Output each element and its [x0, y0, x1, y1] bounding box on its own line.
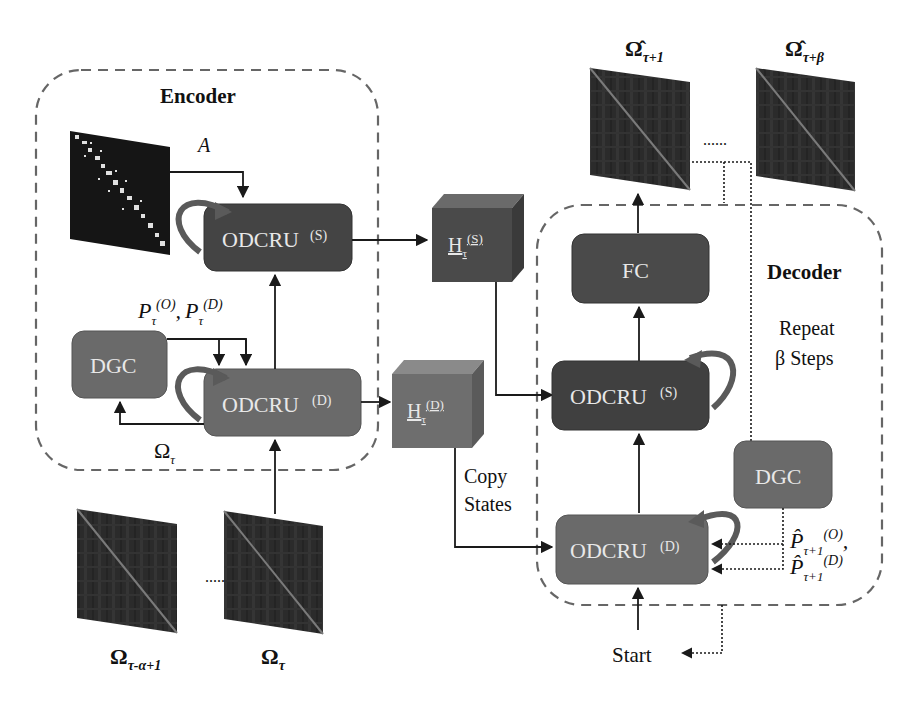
repeat-label-1: Repeat — [779, 317, 835, 340]
architecture-diagram: A Encoder ODCRU (S) Pτ(O),Pτ(D) DGC ODCR… — [0, 0, 912, 701]
copy-states-label-1: Copy — [464, 465, 507, 488]
encoder-dgc-box[interactable]: DGC — [72, 331, 167, 398]
decoder-dgc-box[interactable]: DGC — [734, 441, 832, 508]
arrow-dgc-p-o — [167, 339, 246, 365]
arrow-adjacency-to-odcru-s — [170, 172, 243, 197]
encoder-title: Encoder — [160, 84, 236, 108]
output-label-first: Ω̂τ+1 — [625, 36, 664, 65]
input-first-label: Ωτ-α+1 — [110, 644, 161, 673]
p-hat-label: P̂τ+1(O), P̂τ+1(D) — [789, 527, 848, 584]
svg-text:Ωτ-α+1: Ωτ-α+1 — [110, 644, 161, 673]
decoder-fc-label: FC — [622, 258, 649, 283]
decoder-odcru-d-label: ODCRU — [570, 538, 647, 563]
svg-text:Ω̂τ+β: Ω̂τ+β — [785, 36, 825, 65]
decoder-odcru-s-sup: (S) — [660, 385, 677, 401]
omega-feedback-label: Ωτ — [154, 438, 176, 467]
arrow-hs-to-decoder-odcru-s — [496, 282, 552, 395]
encoder-odcru-d-sup: (D) — [312, 393, 332, 409]
adjacency-label: A — [196, 134, 211, 156]
decoder-odcru-s-box[interactable]: ODCRU (S) — [552, 361, 709, 430]
svg-text:Pτ(O),Pτ(D): Pτ(O),Pτ(D) — [137, 297, 223, 328]
decoder-title: Decoder — [767, 260, 842, 284]
input-last-label: Ωτ — [261, 644, 286, 673]
repeat-label-2: β Steps — [775, 347, 834, 370]
output-ellipsis: ...... — [703, 131, 727, 148]
hidden-state-s-cube: Hτ(S) — [432, 194, 524, 282]
dotted-arrow-dgc-p-d — [712, 508, 783, 569]
decoder-odcru-d-sup: (D) — [660, 539, 680, 555]
decoder-odcru-d-box[interactable]: ODCRU (D) — [556, 515, 708, 584]
decoder-dgc-label: DGC — [755, 464, 801, 489]
output-matrix-first — [590, 68, 690, 190]
svg-text:Ωτ: Ωτ — [261, 644, 286, 673]
encoder-odcru-s-sup: (S) — [310, 228, 327, 244]
dotted-arrow-loop-to-start — [682, 605, 722, 653]
encoder-odcru-d-label: ODCRU — [222, 392, 299, 417]
input-matrix-first — [77, 509, 177, 633]
p-tau-label: Pτ(O),Pτ(D) — [137, 297, 223, 328]
copy-states-label-2: States — [464, 493, 512, 515]
encoder-dgc-label: DGC — [90, 353, 136, 378]
input-matrix-last — [224, 511, 323, 634]
svg-text:Ω̂τ+1: Ω̂τ+1 — [625, 36, 664, 65]
output-label-last: Ω̂τ+β — [785, 36, 825, 65]
svg-text:Ωτ: Ωτ — [154, 438, 176, 467]
encoder-odcru-s-label: ODCRU — [222, 227, 299, 252]
decoder-odcru-s-label: ODCRU — [570, 384, 647, 409]
adjacency-matrix-image — [70, 131, 170, 255]
hidden-state-d-cube: Hτ(D) — [392, 360, 484, 448]
decoder-fc-box[interactable]: FC — [572, 234, 709, 303]
output-matrix-last — [756, 68, 855, 191]
start-label: Start — [612, 643, 652, 667]
